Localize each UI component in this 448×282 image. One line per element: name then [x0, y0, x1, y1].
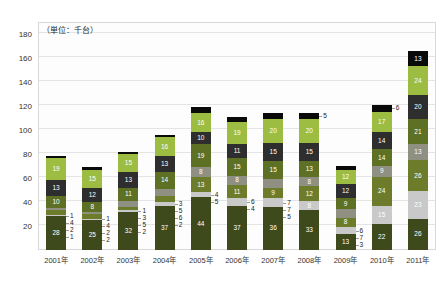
- bar-2005年[interactable]: 4413819101645: [191, 22, 211, 250]
- bar-segment[interactable]: 14: [155, 172, 175, 189]
- bar-segment[interactable]: 19: [46, 158, 66, 181]
- bar-2006年[interactable]: 3711815111964: [227, 22, 247, 250]
- bar-segment[interactable]: 11: [118, 188, 138, 201]
- bar-segment[interactable]: 8: [336, 218, 356, 228]
- bar-segment[interactable]: 13: [336, 234, 356, 250]
- bar-segment[interactable]: 8: [82, 202, 102, 212]
- bar-segment[interactable]: 12: [336, 170, 356, 184]
- bar-segment[interactable]: 21: [408, 119, 428, 144]
- bar-segment[interactable]: 15: [82, 170, 102, 188]
- bar-segment[interactable]: 8: [191, 167, 211, 177]
- bar-segment[interactable]: 36: [263, 207, 283, 250]
- bar-segment[interactable]: [155, 135, 175, 137]
- bar-segment[interactable]: 13: [299, 161, 319, 177]
- bar-segment[interactable]: 17: [372, 112, 392, 132]
- bar-segment[interactable]: 20: [299, 119, 319, 143]
- bar-segment[interactable]: 13: [191, 177, 211, 193]
- bar-segment[interactable]: 13: [46, 180, 66, 196]
- bar-segment[interactable]: 16: [191, 113, 211, 132]
- bar-segment[interactable]: [263, 179, 283, 187]
- bar-segment[interactable]: 8: [227, 176, 247, 186]
- bar-segment[interactable]: 37: [227, 206, 247, 250]
- bar-segment[interactable]: [82, 167, 102, 169]
- bar-segment[interactable]: 15: [263, 161, 283, 179]
- bar-segment[interactable]: 19: [191, 144, 211, 167]
- bar-2001年[interactable]: 281013191421: [46, 22, 66, 250]
- bar-2002年[interactable]: 25812151422: [82, 22, 102, 250]
- bar-segment[interactable]: [82, 219, 102, 220]
- bar-segment[interactable]: 10: [191, 132, 211, 144]
- bar-segment[interactable]: [118, 201, 138, 207]
- bar-segment[interactable]: [82, 214, 102, 219]
- bar-segment[interactable]: 28: [46, 216, 66, 250]
- bar-segment[interactable]: 11: [227, 185, 247, 198]
- bar-segment[interactable]: 13: [408, 51, 428, 67]
- bar-segment[interactable]: 8: [299, 177, 319, 187]
- bar-segment[interactable]: [46, 156, 66, 157]
- bar-segment[interactable]: [336, 227, 356, 234]
- bar-segment[interactable]: 10: [46, 196, 66, 208]
- bar-2003年[interactable]: 321113151352: [118, 22, 138, 250]
- bar-segment[interactable]: [227, 117, 247, 122]
- bar-segment[interactable]: [82, 212, 102, 214]
- bar-segment[interactable]: [118, 207, 138, 211]
- bar-segment[interactable]: 19: [227, 122, 247, 145]
- bar-segment[interactable]: 26: [408, 219, 428, 250]
- bar-segment[interactable]: 15: [118, 154, 138, 172]
- bar-segment[interactable]: 26: [408, 160, 428, 191]
- bar-segment[interactable]: 16: [155, 137, 175, 156]
- bar-segment[interactable]: 15: [227, 158, 247, 176]
- bar-segment[interactable]: [155, 202, 175, 206]
- bar-segment[interactable]: 24: [372, 177, 392, 206]
- bar-segment[interactable]: 33: [299, 210, 319, 250]
- bar-segment[interactable]: 11: [227, 144, 247, 157]
- bar-segment[interactable]: [46, 215, 66, 216]
- bar-segment[interactable]: [372, 105, 392, 112]
- bar-segment[interactable]: [46, 208, 66, 210]
- bar-segment[interactable]: 9: [372, 166, 392, 177]
- bar-segment[interactable]: 14: [372, 132, 392, 149]
- bar-2009年[interactable]: 13891212673: [336, 22, 356, 250]
- bar-segment[interactable]: 32: [118, 212, 138, 250]
- bar-segment[interactable]: 25: [82, 220, 102, 250]
- bar-segment[interactable]: 23: [408, 191, 428, 219]
- bar-segment[interactable]: 12: [299, 186, 319, 200]
- bar-segment[interactable]: 44: [191, 197, 211, 250]
- bar-segment[interactable]: [46, 210, 66, 215]
- bar-segment[interactable]: [263, 113, 283, 119]
- bar-segment[interactable]: 9: [263, 188, 283, 199]
- bar-segment[interactable]: [191, 192, 211, 197]
- bar-2011年[interactable]: 2623261321202413: [408, 22, 428, 250]
- bar-segment[interactable]: 13: [118, 172, 138, 188]
- bar-segment[interactable]: [118, 210, 138, 211]
- segment-callout-label: 4: [70, 220, 74, 227]
- bar-segment[interactable]: [299, 113, 319, 119]
- bar-segment[interactable]: 12: [336, 184, 356, 198]
- bar-segment[interactable]: [336, 209, 356, 217]
- bar-segment[interactable]: 22: [372, 224, 392, 250]
- bar-segment[interactable]: 20: [408, 95, 428, 119]
- bar-2004年[interactable]: 371413163562: [155, 22, 175, 250]
- bar-segment[interactable]: [155, 196, 175, 202]
- bar-2008年[interactable]: 3381281315205: [299, 22, 319, 250]
- bar-segment[interactable]: 24: [408, 66, 428, 95]
- bar-segment[interactable]: 9: [336, 198, 356, 209]
- bar-segment[interactable]: 15: [299, 143, 319, 161]
- bar-segment[interactable]: [227, 198, 247, 205]
- bar-segment[interactable]: [336, 166, 356, 170]
- bar-segment[interactable]: [263, 198, 283, 206]
- bar-2010年[interactable]: 22152491414176: [372, 22, 392, 250]
- bar-segment[interactable]: 8: [299, 201, 319, 211]
- bar-segment[interactable]: [118, 152, 138, 154]
- bar-segment[interactable]: 20: [263, 119, 283, 143]
- bar-segment[interactable]: 15: [263, 143, 283, 161]
- bar-segment[interactable]: [191, 107, 211, 113]
- bar-2007年[interactable]: 369151520775: [263, 22, 283, 250]
- bar-segment[interactable]: 14: [372, 149, 392, 166]
- bar-segment[interactable]: 37: [155, 206, 175, 250]
- bar-segment[interactable]: 12: [82, 188, 102, 202]
- bar-segment[interactable]: [155, 189, 175, 196]
- bar-segment[interactable]: 13: [408, 144, 428, 160]
- bar-segment[interactable]: 13: [155, 156, 175, 172]
- bar-segment[interactable]: 15: [372, 206, 392, 224]
